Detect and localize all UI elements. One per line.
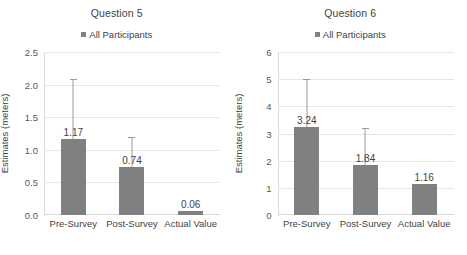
bar-value-label: 3.24 (297, 115, 316, 126)
error-bar-cap (128, 137, 135, 138)
error-bar-cap (362, 128, 369, 129)
y-axis-title-2: Estimates (meters) (232, 52, 246, 215)
x-axis-tick-label: Pre-Survey (278, 218, 337, 229)
bar[interactable]: 3.24 (294, 127, 319, 215)
x-axis-tick-label: Post-Survey (336, 218, 395, 229)
legend-swatch-icon (81, 32, 86, 37)
bar-group[interactable]: 1.84 (336, 52, 395, 215)
y-axis-tick-label: 0 (266, 210, 271, 221)
x-axis-tick-label: Post-Survey (103, 218, 162, 229)
plot-area-2: 01234563.241.841.16 (278, 52, 454, 215)
y-axis-tick-label: 2.0 (25, 79, 38, 90)
legend-item-label: All Participants (89, 29, 152, 40)
y-axis-tick-label: 2.5 (25, 47, 38, 58)
y-axis-tick-label: 1.0 (25, 144, 38, 155)
bar-group[interactable]: 0.06 (161, 52, 220, 215)
x-axis-tick-labels: Pre-SurveyPost-SurveyActual Value (44, 218, 220, 229)
bar-group[interactable]: 1.17 (44, 52, 103, 215)
chart-panel-question-5: Question 5 All Participants Estimates (m… (0, 0, 234, 255)
bar-group[interactable]: 1.16 (395, 52, 454, 215)
bar-value-label: 0.74 (122, 155, 141, 166)
y-axis-title: Estimates (meters) (0, 52, 12, 215)
bar-value-label: 1.84 (356, 153, 375, 164)
legend-2: All Participants (234, 29, 467, 40)
bar-group[interactable]: 3.24 (278, 52, 337, 215)
y-axis-tick-label: 1 (266, 182, 271, 193)
plot-area: 0.00.51.01.52.02.51.170.740.06 (44, 52, 220, 215)
bar[interactable]: 0.06 (178, 211, 203, 215)
error-bar-cap (303, 79, 310, 80)
y-axis-tick-label: 2 (266, 155, 271, 166)
chart-panel-question-6: Question 6 All Participants Estimates (m… (234, 0, 467, 255)
x-axis-tick-labels-2: Pre-SurveyPost-SurveyActual Value (278, 218, 454, 229)
y-axis-tick-label: 0.0 (25, 210, 38, 221)
y-axis-tick-label: 1.5 (25, 112, 38, 123)
legend-swatch-icon (315, 32, 320, 37)
page-title-2: Question 6 (234, 7, 467, 19)
bar-group[interactable]: 0.74 (103, 52, 162, 215)
bar[interactable]: 1.84 (353, 165, 378, 215)
x-axis-tick-label: Actual Value (161, 218, 220, 229)
legend-item-label: All Participants (323, 29, 386, 40)
bar-value-label: 1.16 (414, 172, 433, 183)
figure-two-bar-charts: Question 5 All Participants Estimates (m… (0, 0, 467, 255)
error-bar-cap (70, 79, 77, 80)
bar[interactable]: 1.16 (412, 184, 437, 216)
bar-value-label: 0.06 (181, 199, 200, 210)
y-axis-tick-label: 0.5 (25, 177, 38, 188)
y-axis-tick-label: 5 (266, 74, 271, 85)
x-axis-tick-label: Actual Value (395, 218, 454, 229)
bar[interactable]: 0.74 (119, 167, 144, 215)
legend: All Participants (0, 29, 234, 40)
bar-value-label: 1.17 (64, 127, 83, 138)
y-axis-tick-label: 6 (266, 47, 271, 58)
y-axis-tick-label: 3 (266, 128, 271, 139)
y-axis-tick-label: 4 (266, 101, 271, 112)
page-title: Question 5 (0, 7, 234, 19)
x-axis-tick-label: Pre-Survey (44, 218, 103, 229)
bar[interactable]: 1.17 (61, 139, 86, 215)
